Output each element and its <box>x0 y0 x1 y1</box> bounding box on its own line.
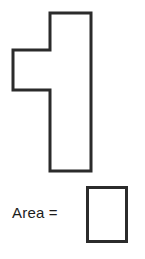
area-prompt-label: Area = <box>12 204 58 222</box>
worksheet-canvas: Area = <box>0 0 145 259</box>
area-answer-box[interactable] <box>86 186 128 243</box>
compound-polygon-shape <box>13 13 91 171</box>
